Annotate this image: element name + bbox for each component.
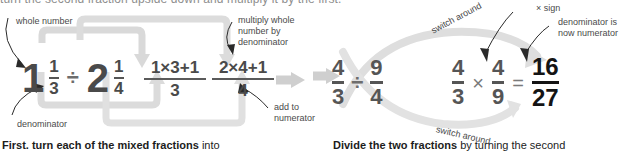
right-caption-bold: Divide the two fractions (333, 139, 457, 151)
label-denominator: denominator (17, 119, 67, 130)
right-multiply-expression: 4 3 × 4 9 = 16 27 (452, 54, 559, 111)
cropped-headline-text: turn the second fraction upside down and… (0, 0, 341, 6)
rfrac3: 4 3 (452, 56, 464, 109)
label-whole-number: whole number (16, 16, 73, 27)
right-caption-rest: by turning the second (457, 139, 565, 151)
rfrac2-denominator: 4 (370, 85, 382, 109)
work-fraction-1: 1×3+1 3 (144, 58, 206, 100)
rfrac1-denominator: 3 (332, 85, 344, 109)
multiplication-sign: × (472, 72, 484, 94)
work1-denominator: 3 (144, 81, 206, 100)
work1-fraction-bar (144, 78, 206, 80)
mixed2-numerator: 1 (114, 58, 123, 76)
label-denominator-now-line2: now numerator (558, 28, 626, 39)
left-caption-rest: into (199, 139, 220, 151)
equals-sign: = (512, 72, 524, 94)
rfrac3-denominator: 3 (452, 85, 464, 109)
result-numerator: 16 (532, 54, 559, 80)
right-improper-expression: 4 3 ÷ 9 4 (332, 56, 383, 109)
label-denominator-now-line1: denominator is (558, 17, 626, 28)
mixed1-numerator: 1 (49, 58, 58, 76)
mixed1-denominator: 3 (49, 80, 58, 98)
label-multiply-whole-number-by-denominator: multiply whole number by denominator (238, 15, 314, 48)
rfrac2: 9 4 (370, 56, 382, 109)
result-denominator: 27 (532, 85, 559, 111)
label-add-to-numerator: add to numerator (274, 102, 318, 124)
label-add-to-line1: add to (274, 102, 318, 113)
work1-numerator: 1×3+1 (144, 58, 206, 77)
right-caption: Divide the two fractions by turning the … (333, 138, 565, 152)
rfrac3-numerator: 4 (452, 56, 464, 80)
rfrac4-numerator: 4 (492, 56, 504, 80)
rfrac1: 4 3 (332, 56, 344, 109)
rfrac4: 4 9 (492, 56, 504, 109)
mixed1-whole: 1 (22, 58, 44, 98)
label-multiply-line3: denominator (238, 37, 314, 48)
label-denominator-now-numerator: denominator is now numerator (558, 17, 626, 39)
left-mixed-expression: 1 1 3 ÷ 2 1 4 (22, 58, 124, 98)
rfrac1-numerator: 4 (332, 56, 344, 80)
mixed2-whole: 2 (87, 58, 109, 98)
result-fraction: 16 27 (532, 54, 559, 111)
label-multiply-line2: number by (238, 26, 314, 37)
mixed2-fraction: 1 4 (114, 58, 123, 98)
work2-fraction-bar (212, 78, 274, 80)
label-times-sign: × sign (536, 3, 560, 14)
rfrac4-denominator: 9 (492, 85, 504, 109)
label-add-to-line2: numerator (274, 113, 318, 124)
label-switch-around-top-wrap: switch around (432, 26, 488, 37)
division-sign-left: ÷ (67, 67, 79, 89)
work-fraction-2: 2×4+1 4 (212, 58, 274, 100)
label-switch-around-bottom-wrap: switch around (436, 124, 492, 135)
division-sign-right: ÷ (351, 72, 363, 94)
work2-denominator: 4 (212, 81, 274, 100)
mixed2-denominator: 4 (114, 80, 123, 98)
left-caption-bold: First. turn each of the mixed fractions (2, 139, 199, 151)
mixed1-fraction: 1 3 (49, 58, 58, 98)
left-caption: First. turn each of the mixed fractions … (2, 138, 220, 152)
work2-numerator: 2×4+1 (212, 58, 274, 77)
label-multiply-line1: multiply whole (238, 15, 314, 26)
rfrac2-numerator: 9 (370, 56, 382, 80)
